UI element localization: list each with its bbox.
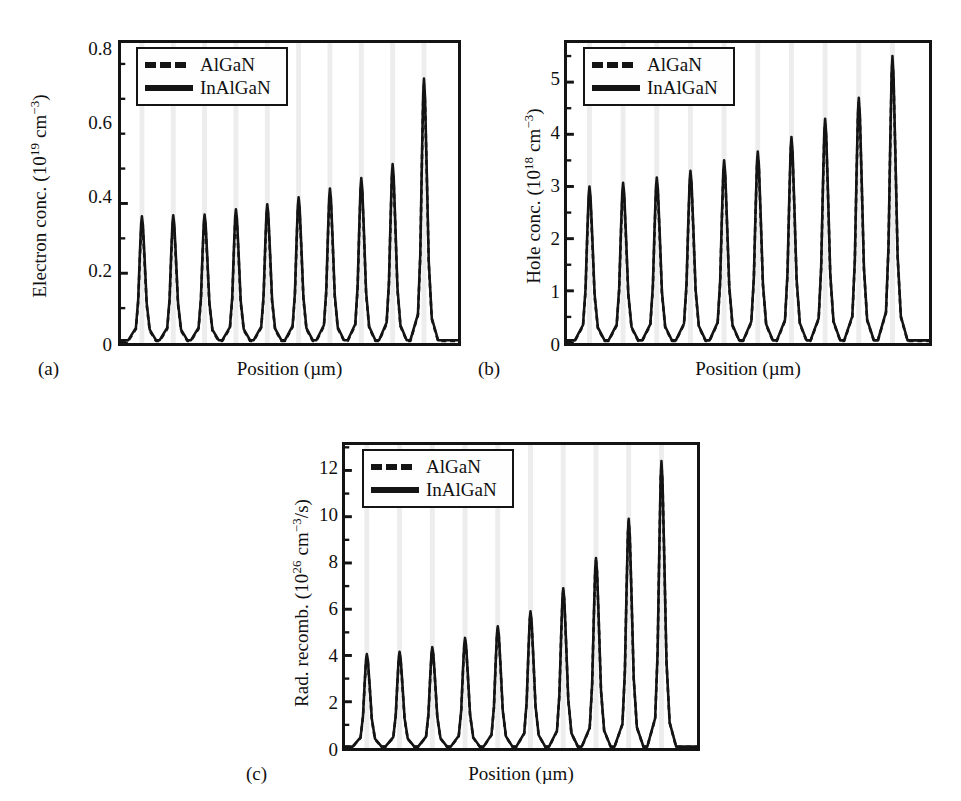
panel-c: Rad. recomb. (1026 cm−3/s) 12 10 8 6 4 2… [210, 400, 730, 800]
legend-entry-inalgan: InAlGaN [371, 478, 503, 501]
panel-a-ytick-0.6: 0.6 [60, 112, 112, 134]
panel-b-x-axis-label: Position (µm) [564, 358, 932, 380]
panel-b-ytick-1: 1 [532, 281, 560, 303]
legend-label-inalgan: InAlGaN [647, 78, 718, 97]
solid-line-icon [371, 483, 419, 497]
panel-b-ytick-3: 3 [532, 175, 560, 197]
panel-a-ticks [121, 64, 128, 343]
legend-label-algan: AlGaN [200, 55, 255, 74]
panel-c-ytick-10: 10 [308, 504, 338, 526]
panel-a: Electron conc. (1019 cm−3) 0.8 0.6 0.4 0… [0, 0, 470, 400]
panel-b-legend: AlGaN InAlGaN [583, 47, 735, 106]
panel-a-ytick-0: 0 [60, 334, 112, 356]
panel-b-ytick-0: 0 [532, 334, 560, 356]
quantum-well-band [528, 445, 533, 748]
panel-b-ytick-5: 5 [532, 68, 560, 90]
panel-b-ytick-2: 2 [532, 228, 560, 250]
panel-b-ticks [567, 56, 574, 343]
panel-c-ytick-6: 6 [308, 598, 338, 620]
panel-a-y-axis-label: Electron conc. (1019 cm−3) [29, 46, 51, 346]
panel-a-tag: (a) [38, 358, 59, 380]
solid-line-icon [145, 81, 193, 95]
quantum-well-band [296, 43, 301, 343]
panel-b-ytick-4: 4 [532, 122, 560, 144]
panel-c-ytick-4: 4 [308, 645, 338, 667]
panel-a-legend: AlGaN InAlGaN [136, 47, 288, 106]
legend-label-inalgan: InAlGaN [200, 78, 271, 97]
figure-root: Electron conc. (1019 cm−3) 0.8 0.6 0.4 0… [0, 0, 961, 801]
dashed-line-icon [592, 58, 640, 72]
panel-b: Hole conc. (1018 cm−3) 5 4 3 2 1 0 Al [470, 0, 961, 400]
legend-label-inalgan: InAlGaN [426, 480, 497, 499]
panel-a-x-axis-label: Position (µm) [118, 358, 461, 380]
legend-entry-inalgan: InAlGaN [145, 76, 277, 99]
panel-c-ytick-2: 2 [308, 692, 338, 714]
panel-c-ytick-0: 0 [308, 739, 338, 761]
panel-c-ticks [345, 447, 352, 748]
dashed-line-icon [371, 460, 419, 474]
panel-c-tag: (c) [246, 763, 267, 785]
legend-entry-algan: AlGaN [592, 53, 724, 76]
legend-label-algan: AlGaN [647, 55, 702, 74]
legend-entry-inalgan: InAlGaN [592, 76, 724, 99]
legend-entry-algan: AlGaN [145, 53, 277, 76]
panel-a-ytick-0.4: 0.4 [60, 186, 112, 208]
panel-a-ytick-0.8: 0.8 [60, 38, 112, 60]
legend-label-algan: AlGaN [426, 457, 481, 476]
dashed-line-icon [145, 58, 193, 72]
legend-entry-algan: AlGaN [371, 455, 503, 478]
panel-c-legend: AlGaN InAlGaN [362, 449, 514, 508]
panel-c-ytick-8: 8 [308, 551, 338, 573]
panel-b-tag: (b) [478, 358, 500, 380]
panel-c-x-axis-label: Position (µm) [342, 763, 700, 785]
panel-c-ytick-12: 12 [308, 457, 338, 479]
solid-line-icon [592, 81, 640, 95]
panel-a-ytick-0.2: 0.2 [60, 260, 112, 282]
